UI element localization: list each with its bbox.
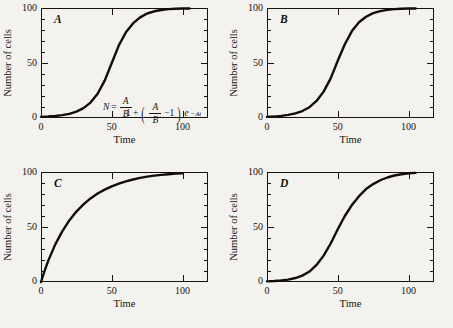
y-tick-label: 0 bbox=[32, 276, 37, 286]
panel-a: A 100 50 0 bbox=[0, 0, 226, 164]
y-tick-label: 50 bbox=[253, 222, 263, 232]
equation-a-den-exp-base: e bbox=[184, 108, 188, 119]
figure-four-growth-curves: A 100 50 0 bbox=[0, 0, 453, 328]
y-tick-label: 50 bbox=[27, 222, 37, 232]
y-tick-label: 50 bbox=[27, 58, 37, 68]
x-axis-title: Time bbox=[340, 298, 362, 309]
x-axis-title: Time bbox=[114, 298, 136, 309]
y-tick-label: 0 bbox=[32, 112, 37, 122]
x-axis-title: Time bbox=[114, 134, 136, 145]
x-tick-label: 0 bbox=[39, 122, 44, 132]
y-tick-label: 50 bbox=[253, 58, 263, 68]
x-tick-label: 0 bbox=[39, 286, 44, 296]
x-tick-label: 100 bbox=[175, 286, 190, 296]
x-tick-label: 50 bbox=[333, 286, 343, 296]
equation-a-equals: = bbox=[111, 102, 116, 113]
curve-c bbox=[41, 172, 208, 282]
y-tick-label: 100 bbox=[22, 3, 37, 13]
y-tick-label: 0 bbox=[258, 276, 263, 286]
y-tick-label: 0 bbox=[258, 112, 263, 122]
curve-b bbox=[267, 8, 434, 118]
x-tick-label: 50 bbox=[107, 286, 117, 296]
equation-a: N = A B x 1 + ( bbox=[103, 90, 205, 126]
x-axis-title: Time bbox=[340, 134, 362, 145]
x-tick-label: 100 bbox=[401, 122, 416, 132]
curve-d bbox=[267, 172, 434, 282]
y-axis-title: Number of cells bbox=[228, 29, 239, 97]
y-axis-title: Number of cells bbox=[2, 29, 13, 97]
y-tick-label: 100 bbox=[248, 167, 263, 177]
panel-d: D 100 50 0 bbox=[226, 164, 452, 328]
plot-area-b: B 100 50 0 bbox=[267, 8, 434, 118]
equation-a-den-minus-one: −1 bbox=[164, 108, 174, 119]
y-axis-title: Number of cells bbox=[228, 193, 239, 261]
equation-a-den-one: 1 + bbox=[126, 108, 138, 119]
equation-a-den-frac-top: A bbox=[152, 102, 158, 112]
x-tick-label: 0 bbox=[265, 286, 270, 296]
x-tick-label: 0 bbox=[265, 122, 270, 132]
panel-c: C 100 50 0 bbox=[0, 164, 226, 328]
plot-area-c: C 100 50 0 bbox=[41, 172, 208, 282]
x-tick-label: 50 bbox=[333, 122, 343, 132]
equation-a-den-frac-bottom: B bbox=[152, 115, 158, 125]
plot-area-d: D 100 50 0 bbox=[267, 172, 434, 282]
x-tick-label: 100 bbox=[401, 286, 416, 296]
y-axis-title: Number of cells bbox=[2, 193, 13, 261]
panel-b: B 100 50 0 bbox=[226, 0, 452, 164]
y-tick-label: 100 bbox=[22, 167, 37, 177]
equation-a-lhs: N bbox=[103, 102, 109, 113]
y-tick-label: 100 bbox=[248, 3, 263, 13]
